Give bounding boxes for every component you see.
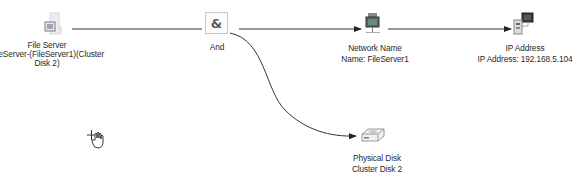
physical-disk-icon <box>360 126 386 144</box>
hand-move-cursor-icon <box>86 129 108 151</box>
node-title: Physical Disk <box>353 153 401 163</box>
node-title: Network Name <box>348 43 402 53</box>
edge-and-physicaldisk[interactable] <box>230 33 356 136</box>
ip-address-icon <box>512 12 534 36</box>
and-gate-icon: & <box>205 12 228 34</box>
network-name-icon <box>363 13 383 35</box>
node-detail: Disk 2) <box>34 58 59 68</box>
node-detail: Cluster Disk 2 <box>352 164 402 174</box>
file-server-icon <box>44 12 64 36</box>
node-title: And <box>210 42 224 52</box>
node-detail: Name: FileServer1 <box>341 54 408 64</box>
node-title: IP Address <box>506 43 545 53</box>
node-detail: IP Address: 192.168.5.104 <box>477 54 572 64</box>
dependency-edges <box>0 0 580 180</box>
